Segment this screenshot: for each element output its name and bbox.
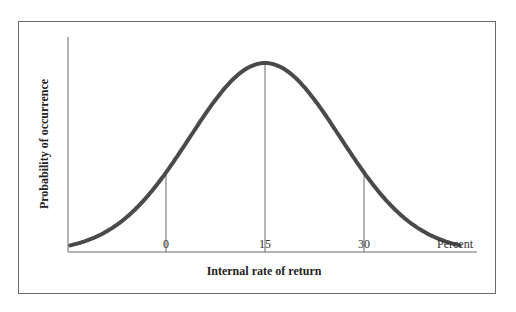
x-tick-label: 30 bbox=[358, 237, 370, 252]
x-axis-label: Internal rate of return bbox=[207, 264, 322, 279]
x-unit-label: Percent bbox=[437, 237, 473, 252]
y-axis-label: Probability of occurrence bbox=[37, 79, 52, 209]
x-tick-label: 0 bbox=[163, 237, 169, 252]
x-tick-label: 15 bbox=[259, 237, 271, 252]
reference-lines bbox=[166, 63, 364, 252]
